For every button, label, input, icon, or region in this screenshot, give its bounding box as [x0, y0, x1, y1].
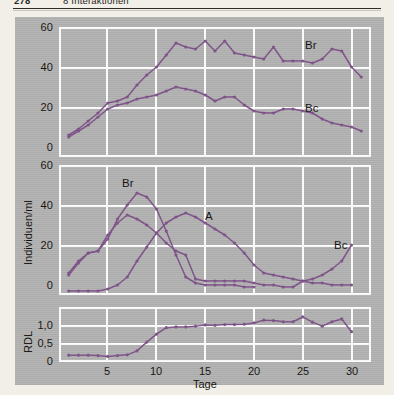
data-point — [106, 287, 109, 290]
data-point — [282, 107, 285, 110]
data-point — [330, 47, 333, 50]
data-point — [272, 111, 275, 114]
data-point — [174, 41, 177, 44]
data-point — [340, 317, 343, 320]
data-point — [282, 320, 285, 323]
data-point — [184, 253, 187, 256]
data-point — [204, 323, 207, 326]
data-point — [204, 279, 207, 282]
data-point — [106, 355, 109, 358]
data-point — [262, 271, 265, 274]
data-point — [126, 275, 129, 278]
series-label-top-bc: Bc — [305, 102, 319, 114]
data-point — [165, 241, 168, 244]
data-point — [96, 115, 99, 118]
ytick-top-40: 40 — [25, 61, 53, 73]
data-point — [116, 103, 119, 106]
data-point — [126, 95, 129, 98]
panel-bottom-plot — [59, 307, 371, 362]
page-number: 278 — [14, 0, 30, 6]
data-point — [311, 61, 314, 64]
ytick-top-60: 60 — [25, 21, 53, 33]
data-point — [87, 123, 90, 126]
data-point — [233, 283, 236, 286]
panel-middle-plot — [59, 165, 371, 295]
data-point — [262, 319, 265, 322]
data-point — [135, 217, 138, 220]
data-point — [243, 103, 246, 106]
data-point — [252, 285, 255, 288]
data-point — [262, 283, 265, 286]
data-point — [184, 211, 187, 214]
xtick-15: 15 — [190, 365, 220, 377]
data-point — [321, 273, 324, 276]
data-point — [204, 283, 207, 286]
data-point — [350, 65, 353, 68]
xtick-5: 5 — [92, 365, 122, 377]
series-label-mid-a: A — [205, 210, 213, 222]
data-point — [321, 117, 324, 120]
ytick-bot-0: 0 — [19, 355, 53, 367]
data-point — [350, 283, 353, 286]
series-label-mid-bc: Bc — [334, 239, 348, 251]
data-point — [301, 315, 304, 318]
data-point — [194, 281, 197, 284]
data-point — [213, 324, 216, 327]
data-point — [77, 289, 80, 292]
data-point — [340, 259, 343, 262]
data-point — [330, 320, 333, 323]
data-point — [311, 321, 314, 324]
data-point — [116, 354, 119, 357]
data-point — [106, 101, 109, 104]
data-point — [135, 349, 138, 352]
data-point — [96, 111, 99, 114]
data-point — [291, 59, 294, 62]
data-point — [77, 261, 80, 264]
data-point — [360, 75, 363, 78]
ytick-top-0: 0 — [25, 141, 53, 153]
data-point — [340, 283, 343, 286]
data-point — [194, 215, 197, 218]
panel-middle-svg — [59, 165, 371, 295]
data-point — [340, 123, 343, 126]
data-point — [126, 213, 129, 216]
data-point — [135, 83, 138, 86]
data-point — [96, 354, 99, 357]
data-point — [291, 320, 294, 323]
data-point — [272, 273, 275, 276]
data-point — [174, 325, 177, 328]
data-point — [223, 279, 226, 282]
x-axis-label-tage: Tage — [193, 378, 217, 390]
page-root: 278 8 Interaktionen 60 40 20 0 Br Bc — [0, 0, 394, 395]
data-point — [165, 221, 168, 224]
data-point — [145, 95, 148, 98]
data-point — [213, 49, 216, 52]
data-point — [77, 129, 80, 132]
data-point — [194, 47, 197, 50]
data-point — [194, 277, 197, 280]
data-point — [233, 323, 236, 326]
ytick-top-20: 20 — [25, 101, 53, 113]
chart-panel-bottom — [59, 307, 371, 362]
data-point — [243, 53, 246, 56]
data-point — [155, 93, 158, 96]
header-rule-shadow — [13, 10, 381, 11]
data-point — [282, 275, 285, 278]
xtick-10: 10 — [141, 365, 171, 377]
data-point — [340, 49, 343, 52]
data-point — [291, 107, 294, 110]
data-point — [321, 325, 324, 328]
data-point — [330, 267, 333, 270]
data-point — [223, 39, 226, 42]
data-point — [330, 283, 333, 286]
data-point — [145, 195, 148, 198]
data-point — [126, 353, 129, 356]
data-point — [233, 51, 236, 54]
chart-panel-middle — [59, 165, 371, 295]
data-point — [165, 229, 168, 232]
data-point — [77, 354, 80, 357]
data-point — [96, 289, 99, 292]
data-point — [330, 121, 333, 124]
y-axis-label-rdl: RDL — [22, 331, 34, 353]
y-axis-label-individuen: Individuen/ml — [22, 200, 34, 265]
